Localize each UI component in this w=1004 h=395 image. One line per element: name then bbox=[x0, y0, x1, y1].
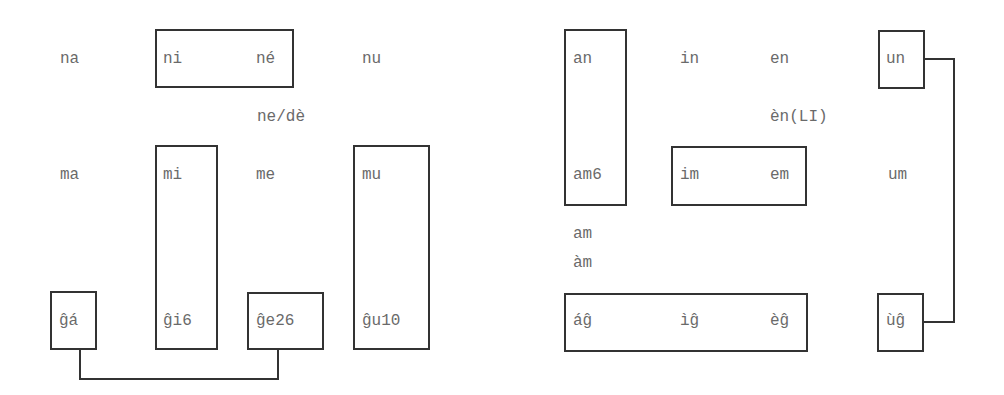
syllable-ne-de: ne/dè bbox=[257, 107, 305, 127]
syllable-na: na bbox=[60, 49, 79, 69]
syllable-eg: èĝ bbox=[770, 311, 789, 331]
syllable-ag: áĝ bbox=[573, 311, 592, 331]
syllable-in: in bbox=[680, 49, 699, 69]
syllable-mi: mi bbox=[163, 165, 182, 185]
syllable-ga: ĝá bbox=[59, 311, 78, 331]
connector-lines bbox=[0, 0, 1004, 395]
syllable-en-li: èn(LI) bbox=[770, 107, 828, 127]
syllable-am6: am6 bbox=[573, 165, 602, 185]
syllable-ma: ma bbox=[60, 165, 79, 185]
syllable-ni: ni bbox=[163, 49, 182, 69]
syllable-ug: ùĝ bbox=[886, 311, 905, 331]
syllable-un: un bbox=[886, 49, 905, 69]
connector-un-ug bbox=[924, 59, 954, 322]
syllable-nu: nu bbox=[362, 49, 381, 69]
syllable-ig: ìĝ bbox=[680, 311, 699, 331]
syllable-am-grave: àm bbox=[573, 253, 592, 273]
syllable-an: an bbox=[573, 49, 592, 69]
syllable-ne-acute: né bbox=[256, 49, 275, 69]
syllable-gu10: ĝu10 bbox=[362, 311, 400, 331]
syllable-ge26: ĝe26 bbox=[256, 311, 294, 331]
connector-ga-ge26 bbox=[80, 349, 278, 379]
syllable-en: en bbox=[770, 49, 789, 69]
syllable-um: um bbox=[888, 165, 907, 185]
syllable-gi6: ĝi6 bbox=[163, 311, 192, 331]
syllable-am: am bbox=[573, 224, 592, 244]
syllable-em: em bbox=[770, 165, 789, 185]
syllable-im: im bbox=[680, 165, 699, 185]
syllable-mu: mu bbox=[362, 165, 381, 185]
syllable-me: me bbox=[256, 165, 275, 185]
